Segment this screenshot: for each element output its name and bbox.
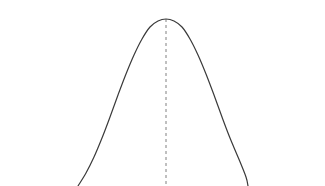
chart-figure: [0, 0, 325, 186]
bell-curve-chart: [0, 0, 325, 186]
chart-background: [0, 0, 325, 186]
